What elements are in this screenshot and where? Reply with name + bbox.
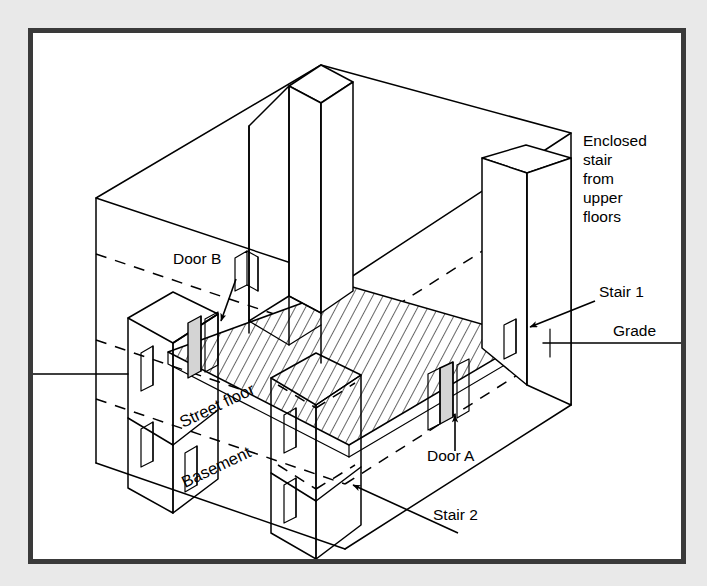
label-street-floor: Street floor: [177, 379, 258, 430]
label-door-a: Door A: [427, 447, 475, 464]
enclosed-stair-line-0: Enclosed: [583, 132, 647, 149]
figure-frame: Enclosed stair from upper floors Stair 1…: [28, 28, 686, 564]
street-floor-slab: [168, 286, 530, 457]
enclosed-stair-line-2: from: [583, 170, 614, 187]
label-stair-1: Stair 1: [599, 283, 644, 300]
stair-1-tower: [482, 145, 571, 405]
label-grade: Grade: [613, 322, 656, 339]
label-door-b: Door B: [173, 250, 221, 267]
label-enclosed-stair: Enclosed stair from upper floors: [583, 132, 647, 225]
figure-page: Enclosed stair from upper floors Stair 1…: [0, 0, 707, 586]
enclosed-stair-line-4: floors: [583, 208, 621, 225]
label-stair-2: Stair 2: [433, 506, 478, 523]
enclosed-stair-line-3: upper: [583, 189, 623, 206]
isometric-diagram: Enclosed stair from upper floors Stair 1…: [33, 33, 681, 559]
enclosed-stair-line-1: stair: [583, 151, 612, 168]
